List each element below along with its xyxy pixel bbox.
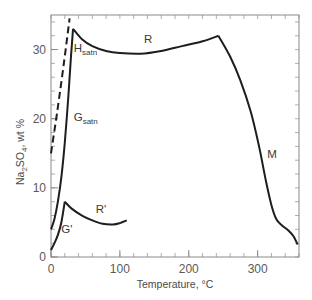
curve-metastable-dashed (51, 18, 70, 153)
curve-label: M (267, 148, 277, 160)
x-axis-ticks: 0100200300 (48, 250, 268, 276)
y-tick-label: 30 (33, 43, 47, 57)
curve-label: R (144, 33, 152, 45)
curve-label: R' (96, 203, 107, 215)
x-axis-title: Temperature, °C (137, 278, 214, 290)
x-tick-label: 300 (248, 262, 268, 276)
x-tick-label: 200 (179, 262, 199, 276)
curve-annotations: HsatnGsatnRR'G'M (61, 33, 277, 235)
curve-label: Hsatn (74, 42, 97, 57)
curve-label: Gsatn (74, 111, 98, 126)
y-axis-ticks: 0102030 (33, 43, 58, 264)
y-tick-label: 10 (33, 181, 47, 195)
y-axis-title: Na2SO4, wt % (14, 119, 29, 185)
curve-m (218, 36, 297, 245)
y-tick-label: 20 (33, 112, 47, 126)
curve-label: G' (61, 223, 72, 235)
x-tick-label: 0 (48, 262, 55, 276)
phase-diagram-chart: 0100200300 0102030 HsatnGsatnRR'G'M Temp… (0, 0, 312, 300)
x-tick-label: 100 (110, 262, 130, 276)
y-tick-label: 0 (39, 250, 46, 264)
